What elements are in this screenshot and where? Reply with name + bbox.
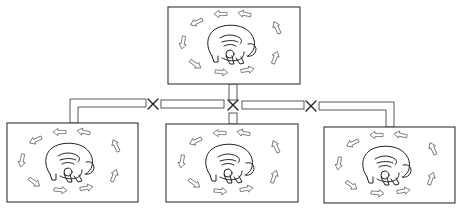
pipe-left-mid [161, 100, 224, 108]
node-bottom-left [7, 123, 138, 202]
x-marker-left: × [148, 99, 158, 109]
x-marker-right: × [306, 101, 316, 111]
pipe-right-elbow [319, 102, 394, 127]
pipe-center-stub [229, 113, 237, 124]
node-bottom-center [166, 124, 298, 202]
pipe-left-elbow [70, 99, 146, 123]
node-bottom-right [324, 127, 455, 203]
pipe-right-mid [242, 101, 304, 109]
x-marker-center: × [228, 100, 238, 110]
diagram-canvas: A parent panel containing a curled anima… [0, 0, 460, 211]
pipe-top-stub [229, 84, 237, 100]
node-top [168, 7, 300, 84]
